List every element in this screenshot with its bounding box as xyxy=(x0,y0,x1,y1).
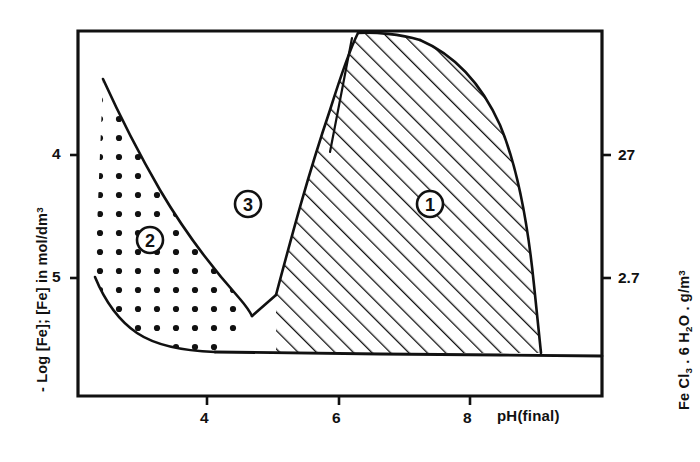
v-notch-connector xyxy=(252,295,276,316)
region-marker-3: 3 xyxy=(235,191,261,217)
x-tick-label-6: 6 xyxy=(332,409,341,427)
y2-label-b: . 6 H xyxy=(676,332,692,368)
x-axis-label: pH(final) xyxy=(497,407,560,424)
region-1-label: 1 xyxy=(425,195,435,215)
region-1-hatched xyxy=(250,20,570,370)
y2-tick-label-27: 27 xyxy=(618,146,635,164)
y-tick-label-4: 4 xyxy=(52,145,61,163)
y2-label-b-sub: 2 xyxy=(683,326,694,332)
x-tick-label-4: 4 xyxy=(200,409,209,427)
x-tick-label-8: 8 xyxy=(463,409,472,427)
y-axis-label-exponent: 3 xyxy=(34,207,45,213)
region-marker-2: 2 xyxy=(137,227,163,253)
figure-root: 3 1 2 4 5 27 2.7 4 6 8 - Log [Fe]; [Fe] … xyxy=(0,0,700,462)
region-marker-1: 1 xyxy=(417,191,443,217)
y2-label-c: O . g/m xyxy=(676,276,692,327)
y-axis-label: - Log [Fe]; [Fe] in mol/dm3 xyxy=(34,207,50,392)
y-axis-label-text: - Log [Fe]; [Fe] in mol/dm xyxy=(34,213,50,392)
plot-canvas: 3 1 2 xyxy=(0,0,700,462)
y2-axis-label: Fe Cl3 . 6 H2O . g/m3 xyxy=(676,270,694,410)
y2-label-c-sup: 3 xyxy=(676,270,687,276)
y-tick-label-5: 5 xyxy=(52,268,61,286)
y2-label-a-sub: 3 xyxy=(683,368,694,374)
region-3-label: 3 xyxy=(243,195,253,215)
y2-tick-label-2p7: 2.7 xyxy=(618,269,640,287)
region-2-label: 2 xyxy=(145,231,155,251)
y2-label-a: Fe Cl xyxy=(676,374,692,410)
